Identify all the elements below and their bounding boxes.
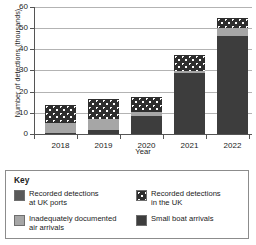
y-tick-mark (30, 7, 34, 8)
x-axis-title: Year (34, 147, 252, 156)
y-tick-label: 0 (24, 130, 28, 138)
legend-item-label: Recorded detections in the UK (151, 189, 221, 208)
legend-swatch-icon (14, 215, 25, 226)
y-tick-mark (30, 70, 34, 71)
x-tick-mark (206, 135, 207, 139)
bar-segment-recorded-in-uk (88, 99, 119, 119)
plot-area: 60 50 40 30 20 10 0 (34, 7, 252, 135)
bar-2018 (45, 105, 76, 134)
legend-swatch-icon (136, 190, 147, 201)
gridline-60 (34, 7, 252, 8)
bar-segment-air-arrivals (88, 119, 119, 130)
legend-swatch-icon (14, 190, 25, 201)
y-tick-mark (30, 28, 34, 29)
bar-segment-air-arrivals (45, 123, 76, 134)
bar-segment-recorded-in-uk (131, 97, 162, 112)
y-tick-label: 40 (19, 45, 28, 53)
y-tick-mark (30, 92, 34, 93)
bar-segment-small-boat (45, 133, 76, 134)
bar-segment-air-arrivals (217, 28, 248, 37)
legend-swatch-icon (136, 215, 147, 226)
legend-item-label: Small boat arrivals (151, 214, 213, 223)
bar-segment-recorded-in-uk (45, 105, 76, 123)
legend-item-inadequately-documented-air-arrivals: Inadequately documented air arrivals (14, 214, 136, 233)
bar-segment-small-boat (88, 130, 119, 134)
x-tick-mark (77, 135, 78, 139)
bar-segment-recorded-in-uk (217, 18, 248, 28)
legend: Key Recorded detections at UK ports Reco… (5, 170, 249, 239)
bar-2022 (217, 18, 248, 134)
legend-title: Key (14, 175, 29, 185)
y-tick-label: 10 (19, 109, 28, 117)
y-tick-label: 30 (19, 66, 28, 74)
x-axis-line (34, 134, 252, 135)
bar-segment-small-boat (131, 116, 162, 134)
x-tick-mark (249, 135, 250, 139)
legend-item-label: Inadequately documented air arrivals (29, 214, 116, 233)
bar-2020 (131, 97, 162, 134)
bar-2021 (174, 55, 205, 134)
y-tick-mark (30, 113, 34, 114)
x-tick-mark (120, 135, 121, 139)
legend-item-recorded-at-uk-ports: Recorded detections at UK ports (14, 189, 132, 208)
bar-2019 (88, 99, 119, 134)
bar-chart-figure: Number of detections (thousands) 60 50 4… (0, 0, 256, 163)
bar-segment-recorded-in-uk (174, 55, 205, 71)
y-tick-label: 60 (19, 3, 28, 11)
bar-segment-small-boat (217, 36, 248, 134)
y-tick-mark (30, 49, 34, 50)
legend-item-recorded-in-the-uk: Recorded detections in the UK (136, 189, 248, 208)
y-tick-label: 20 (19, 88, 28, 96)
y-tick-label: 50 (19, 24, 28, 32)
bar-segment-small-boat (174, 73, 205, 134)
legend-item-label: Recorded detections at UK ports (29, 189, 99, 208)
x-tick-mark (163, 135, 164, 139)
legend-item-small-boat-arrivals: Small boat arrivals (136, 214, 248, 226)
y-axis-line (34, 7, 35, 135)
x-tick-mark (34, 135, 35, 139)
